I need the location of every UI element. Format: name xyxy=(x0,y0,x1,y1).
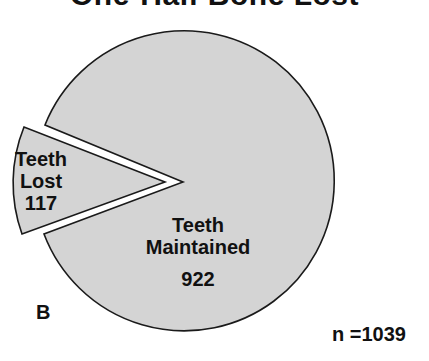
label-maint-line1: Teeth xyxy=(118,214,278,236)
label-teeth-lost: Teeth Lost 117 xyxy=(6,148,76,214)
label-lost-line2: Lost xyxy=(6,170,76,192)
label-maint-line2: Maintained xyxy=(118,236,278,258)
label-lost-line1: Teeth xyxy=(6,148,76,170)
label-teeth-maintained: Teeth Maintained 922 xyxy=(118,214,278,290)
panel-label: B xyxy=(36,301,50,324)
label-lost-value: 117 xyxy=(6,192,76,214)
label-maint-value: 922 xyxy=(118,268,278,290)
sample-size: n =1039 xyxy=(332,323,406,346)
